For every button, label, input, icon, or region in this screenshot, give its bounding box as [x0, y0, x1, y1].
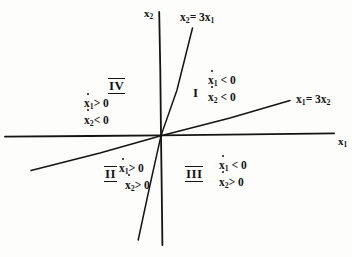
condition-relation: < 0 [232, 159, 247, 171]
condition-relation: < 0 [221, 91, 236, 103]
condition-relation: > 0 [129, 162, 144, 174]
line-label-x2-equals-3x1: x2= 3x1 [180, 11, 215, 26]
x2-axis-line [159, 12, 162, 245]
condition-relation: < 0 [221, 74, 236, 86]
x2-axis-label-subscript: 2 [150, 12, 154, 21]
quadrant-conditions-III: x1 < 0 x2> 0 [219, 158, 247, 191]
quadrant-numeral-II: II [104, 166, 117, 182]
condition-var: x [219, 159, 225, 171]
quadrant-numeral-I: I [193, 86, 198, 100]
quadrant-conditions-II: x1> 0 x2> 0 [119, 161, 150, 194]
condition-row: x1> 0 [119, 161, 150, 178]
quadrant-numeral-IV: IV [108, 78, 125, 94]
line-label-tail: = 3x [190, 11, 211, 23]
condition-var: x [219, 176, 225, 188]
condition-subscript: 1 [214, 79, 218, 88]
x2-dot-symbol: x [219, 175, 225, 190]
quadrant-conditions-I: x1 < 0 x2 < 0 [208, 73, 236, 106]
diagram-canvas [0, 0, 352, 257]
condition-var: x [208, 91, 214, 103]
line-label-tail: = 3x [306, 93, 327, 105]
quadrant-conditions-IV: x1> 0 x2< 0 [84, 96, 109, 129]
x2-dot-symbol: x [208, 90, 214, 105]
condition-var: x [84, 114, 90, 126]
condition-row: x2> 0 [119, 178, 150, 195]
condition-row: x2 < 0 [208, 90, 236, 107]
condition-row: x2< 0 [84, 113, 109, 130]
condition-row: x2> 0 [219, 175, 247, 192]
line-label-tail-subscript: 2 [327, 98, 331, 107]
condition-var: x [84, 97, 90, 109]
phase-plane-figure: x2 x1 x2= 3x1 x1= 3x2 I x1 < 0 x2 < 0 IV… [0, 0, 352, 257]
condition-relation: < 0 [94, 114, 109, 126]
line-label-x1-equals-3x2: x1= 3x2 [296, 93, 331, 108]
x2-dot-symbol: x [125, 178, 131, 193]
condition-subscript: 1 [225, 164, 229, 173]
condition-var: x [125, 179, 131, 191]
line-label-tail-subscript: 1 [211, 16, 215, 25]
condition-relation: > 0 [229, 176, 244, 188]
x1-axis-label: x1 [338, 135, 347, 149]
x1-dot-symbol: x [119, 161, 125, 176]
x1-axis-label-subscript: 1 [344, 140, 348, 149]
quadrant-numeral-III: III [185, 166, 203, 182]
condition-relation: > 0 [94, 97, 109, 109]
x2-dot-symbol: x [84, 113, 90, 128]
condition-var: x [208, 74, 214, 86]
condition-var: x [119, 162, 125, 174]
condition-subscript: 2 [214, 96, 218, 105]
condition-relation: > 0 [135, 179, 150, 191]
x2-axis-label: x2 [144, 7, 153, 21]
